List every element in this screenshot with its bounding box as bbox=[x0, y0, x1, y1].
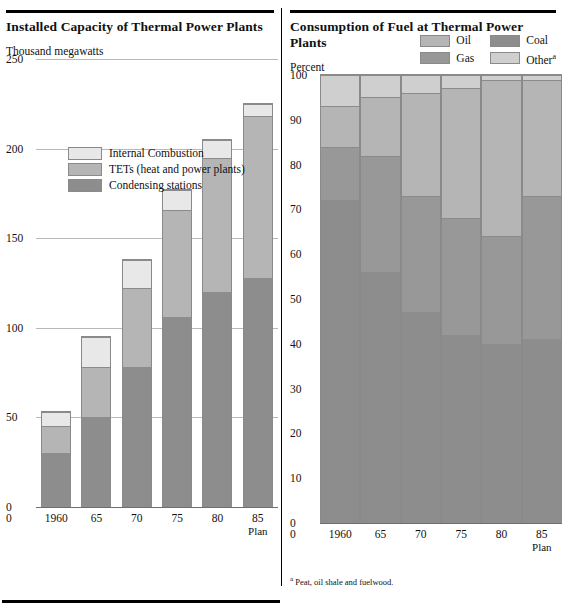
legend-item-oil: Oil bbox=[420, 34, 474, 47]
legend-swatch-internal-combustion bbox=[68, 147, 102, 160]
bar-segment-condensing-stations[interactable] bbox=[123, 367, 151, 507]
legend-label-internal-combustion: Internal Combustion bbox=[109, 147, 204, 160]
legend-item-coal: Coal bbox=[490, 34, 556, 47]
bar-segment-oil[interactable] bbox=[523, 80, 561, 196]
right-top-rule bbox=[290, 10, 556, 13]
bar-segment-condensing-stations[interactable] bbox=[203, 292, 231, 507]
chart-page: Installed Capacity of Thermal Power Plan… bbox=[0, 0, 564, 605]
bar-segment-tets-heat-and-power-plants[interactable] bbox=[244, 116, 272, 277]
stacked-bar[interactable] bbox=[162, 189, 192, 507]
bar-segment-gas[interactable] bbox=[321, 147, 359, 201]
bar-segment-condensing-stations[interactable] bbox=[244, 278, 272, 507]
x-axis-tick-sublabel: Plan bbox=[238, 525, 278, 538]
legend-swatch-gas bbox=[420, 52, 450, 64]
bar-slot-80 bbox=[197, 59, 237, 507]
right-chart-panel: Consumption of Fuel at Thermal Power Pla… bbox=[282, 0, 564, 605]
left-plot-area: Internal Combustion TETs (heat and power… bbox=[6, 59, 278, 529]
legend-label-coal: Coal bbox=[526, 34, 548, 47]
y-axis-tick-30: 30 bbox=[290, 384, 318, 396]
stacked-bar[interactable] bbox=[81, 336, 111, 507]
legend-item-condensing-stations: Condensing stations bbox=[68, 179, 245, 192]
bar-segment-oil[interactable] bbox=[442, 88, 480, 218]
bar-segment-other[interactable] bbox=[442, 75, 480, 88]
x-axis-tick-75: 75 bbox=[157, 512, 197, 538]
y-axis-tick-50: 50 bbox=[290, 294, 318, 306]
legend-label-gas: Gas bbox=[456, 52, 474, 65]
stacked-bar[interactable] bbox=[481, 74, 521, 523]
x-axis-tick-85: 85Plan bbox=[522, 528, 562, 554]
bar-segment-condensing-stations[interactable] bbox=[82, 417, 110, 507]
stacked-bar[interactable] bbox=[441, 74, 481, 523]
footnote-text: Peat, oil shale and fuelwood. bbox=[295, 577, 393, 587]
legend-other-footnote-marker: a bbox=[552, 52, 556, 61]
bar-slot-85-Plan bbox=[522, 75, 562, 523]
bar-segment-coal[interactable] bbox=[523, 339, 561, 523]
stacked-bar[interactable] bbox=[41, 411, 71, 507]
bar-segment-gas[interactable] bbox=[482, 236, 520, 344]
right-plot-area: 100908070605040302010019606570758085Plan… bbox=[290, 75, 562, 545]
stacked-bar[interactable] bbox=[320, 74, 360, 523]
y-axis-tick-80: 80 bbox=[290, 160, 318, 172]
bar-slot-75 bbox=[157, 59, 197, 507]
stacked-bar[interactable] bbox=[401, 74, 441, 523]
bar-segment-coal[interactable] bbox=[361, 272, 399, 523]
stacked-bar[interactable] bbox=[243, 103, 273, 507]
bar-segment-gas[interactable] bbox=[402, 196, 440, 312]
bar-segment-tets-heat-and-power-plants[interactable] bbox=[42, 426, 70, 453]
bar-segment-oil[interactable] bbox=[361, 97, 399, 155]
y-axis-tick-70: 70 bbox=[290, 204, 318, 216]
x-axis-tick-80: 80 bbox=[197, 512, 237, 538]
footnote-marker: a bbox=[290, 575, 293, 583]
bar-segment-gas[interactable] bbox=[442, 218, 480, 334]
y-axis-tick-40: 40 bbox=[290, 339, 318, 351]
bar-segment-coal[interactable] bbox=[442, 335, 480, 523]
bar-segment-coal[interactable] bbox=[482, 344, 520, 523]
stacked-bar[interactable] bbox=[122, 259, 152, 507]
x-axis-tick-65: 65 bbox=[76, 512, 116, 538]
bar-slot-80 bbox=[481, 75, 521, 523]
x-axis-tick-1960: 1960 bbox=[320, 528, 360, 554]
bar-segment-condensing-stations[interactable] bbox=[163, 317, 191, 507]
bar-segment-condensing-stations[interactable] bbox=[42, 453, 70, 507]
x-axis-origin-label: 0 bbox=[6, 512, 12, 524]
bar-segment-other[interactable] bbox=[361, 75, 399, 97]
bar-slot-1960 bbox=[320, 75, 360, 523]
bar-segment-internal-combustion[interactable] bbox=[82, 337, 110, 367]
left-legend: Internal Combustion TETs (heat and power… bbox=[68, 147, 245, 195]
bar-segment-tets-heat-and-power-plants[interactable] bbox=[82, 367, 110, 417]
legend-swatch-coal bbox=[490, 35, 520, 47]
y-axis-tick-10: 10 bbox=[290, 473, 318, 485]
bar-segment-internal-combustion[interactable] bbox=[123, 260, 151, 289]
bar-segment-gas[interactable] bbox=[361, 156, 399, 272]
y-axis-tick-100: 100 bbox=[6, 323, 34, 335]
bar-slot-70 bbox=[401, 75, 441, 523]
left-unit-label: Thousand megawatts bbox=[6, 45, 274, 57]
y-axis-tick-100: 100 bbox=[290, 70, 318, 82]
bar-segment-other[interactable] bbox=[402, 75, 440, 93]
bar-segment-coal[interactable] bbox=[321, 200, 359, 523]
bar-segment-coal[interactable] bbox=[402, 312, 440, 523]
bar-segment-other[interactable] bbox=[321, 75, 359, 106]
bar-group bbox=[36, 59, 278, 507]
bar-segment-gas[interactable] bbox=[523, 196, 561, 339]
legend-swatch-other bbox=[490, 52, 520, 64]
x-axis-tick-80: 80 bbox=[481, 528, 521, 554]
stacked-bar[interactable] bbox=[522, 74, 562, 523]
bar-segment-oil[interactable] bbox=[402, 93, 440, 196]
x-axis-tick-1960: 1960 bbox=[36, 512, 76, 538]
bar-segment-internal-combustion[interactable] bbox=[42, 412, 70, 426]
bar-segment-oil[interactable] bbox=[321, 106, 359, 146]
bar-slot-1960 bbox=[36, 59, 76, 507]
right-footnote: a Peat, oil shale and fuelwood. bbox=[290, 574, 393, 587]
y-axis-tick-90: 90 bbox=[290, 115, 318, 127]
bar-segment-tets-heat-and-power-plants[interactable] bbox=[163, 210, 191, 318]
legend-label-other: Othera bbox=[526, 50, 556, 67]
bar-segment-internal-combustion[interactable] bbox=[244, 104, 272, 117]
legend-item-gas: Gas bbox=[420, 50, 474, 67]
y-axis-tick-50: 50 bbox=[6, 412, 34, 424]
bar-segment-tets-heat-and-power-plants[interactable] bbox=[123, 288, 151, 367]
stacked-bar[interactable] bbox=[360, 74, 400, 523]
x-axis-tick-70: 70 bbox=[117, 512, 157, 538]
bar-segment-oil[interactable] bbox=[482, 80, 520, 237]
bar-group bbox=[320, 75, 562, 523]
